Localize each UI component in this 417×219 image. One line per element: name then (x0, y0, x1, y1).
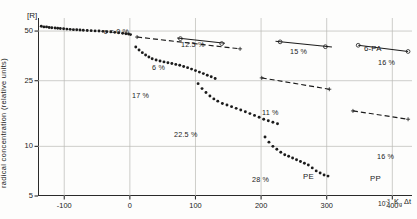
data-point-dot (271, 121, 274, 124)
data-point-dot (311, 166, 314, 169)
pe-label: PE (303, 172, 314, 181)
y-tick-label-10: 10 (11, 141, 33, 150)
data-point-dot (56, 27, 59, 30)
data-point-dot (208, 95, 211, 98)
y-tick-label-5: 5 (11, 191, 33, 200)
data-point-dot (323, 174, 326, 177)
data-point-dot (283, 153, 286, 156)
pct-6-label: 6 % (152, 63, 165, 72)
x-axis-unit: 10-3 (378, 198, 390, 207)
data-point-dot (182, 65, 185, 68)
data-point-dot (230, 105, 233, 108)
pct-22-5-label: 22.5 % (174, 130, 198, 139)
data-point-dot (221, 102, 224, 105)
data-point-dot (141, 51, 144, 54)
data-point-dot (134, 46, 137, 49)
data-point-dot (244, 110, 247, 113)
x-axis-symbol-delta-t: Δt (404, 197, 411, 206)
data-point-dot (79, 29, 82, 32)
data-point-dot (202, 72, 205, 75)
data-point-dot (295, 158, 298, 161)
data-point-dot (147, 56, 150, 59)
data-point-dot (253, 114, 256, 117)
y-tick-label-25: 25 (11, 76, 33, 85)
data-point-dot (271, 145, 274, 148)
data-point-dot (129, 33, 132, 36)
data-point-dot (212, 97, 215, 100)
x-tick-label-200: 200 (241, 201, 281, 210)
data-point-dot (258, 116, 261, 119)
data-point-dot (291, 157, 294, 160)
data-point-dot (205, 91, 208, 94)
data-point-dot (276, 122, 279, 125)
pct-28-label: 28 % (252, 175, 269, 184)
pct-15-label: 15 % (290, 47, 307, 56)
data-point-dot (48, 26, 51, 29)
data-point-dot (40, 25, 43, 28)
data-point-dot (275, 148, 278, 151)
data-point-dot (303, 162, 306, 165)
data-point-dot (210, 75, 213, 78)
data-point-dot (201, 87, 204, 90)
data-point-dot (239, 109, 242, 112)
data-point-dot (264, 136, 267, 139)
data-point-dot (75, 28, 78, 31)
data-point-dot (42, 25, 45, 28)
chart-figure: [R] radical concentration (relative unit… (0, 0, 417, 219)
data-point-dot (319, 171, 322, 174)
data-point-dot (216, 100, 219, 103)
data-point-dot (235, 107, 238, 110)
trend-line-11- (262, 78, 330, 89)
eps-0-label: ε = 0 % (104, 27, 129, 36)
data-point-dot (82, 29, 85, 32)
chart-canvas (0, 0, 417, 219)
data-point-dot (151, 57, 154, 60)
data-point-dot (90, 29, 93, 32)
data-point-dot (174, 63, 177, 66)
x-axis-symbol-subscript: g (399, 201, 402, 207)
data-point-dot (54, 27, 57, 30)
data-point-dot (194, 69, 197, 72)
data-point-dot (299, 160, 302, 163)
x-tick-label-neg100: -100 (44, 201, 84, 210)
data-point-dot (86, 29, 89, 32)
data-point-dot (307, 164, 310, 167)
data-point-dot (197, 82, 200, 85)
data-point-dot (98, 30, 101, 33)
x-axis-unit-exponent: -3 (385, 198, 389, 204)
x-tick-label-100: 100 (175, 201, 215, 210)
data-point-dot (59, 27, 62, 30)
data-point-dot (206, 74, 209, 77)
data-point-dot (166, 61, 169, 64)
data-point-dot (45, 25, 48, 28)
data-point-dot (226, 104, 229, 107)
data-point-dot (248, 112, 251, 115)
pct-11-label: 11 % (262, 108, 279, 117)
data-point-dot (138, 49, 141, 52)
data-point-dot (190, 68, 193, 71)
data-point-dot (268, 141, 271, 144)
data-point-dot (69, 28, 72, 31)
pct-17-label: 17 % (132, 91, 149, 100)
data-point-dot (155, 59, 158, 62)
data-point-dot (50, 26, 53, 29)
data-point-dot (72, 28, 75, 31)
pp-label: PP (370, 174, 381, 183)
pct-12-5-label: 12.5 % (181, 40, 205, 49)
data-point-dot (178, 64, 181, 67)
data-point-dot (186, 66, 189, 69)
y-tick-label-50: 50 (11, 26, 33, 35)
data-point-dot (65, 28, 68, 31)
data-point-dot (144, 54, 147, 57)
x-tick-label-0: 0 (110, 201, 150, 210)
data-point-dot (327, 175, 330, 178)
pct-16-bot-label: 16 % (377, 152, 394, 161)
data-point-dot (315, 169, 318, 172)
data-point-dot (267, 119, 270, 122)
data-point-dot (287, 155, 290, 158)
pa-label: 6-PA (364, 44, 382, 53)
data-point-dot (170, 62, 173, 65)
x-tick-label-300: 300 (307, 201, 347, 210)
data-point-dot (198, 71, 201, 74)
data-point-dot (62, 27, 65, 30)
